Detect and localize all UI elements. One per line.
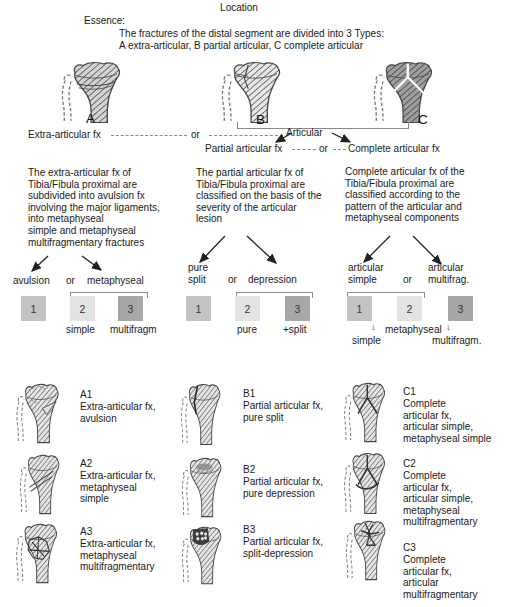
branch-a-right: metaphyseal [87, 275, 144, 287]
column-b-description: The partial articular fx of Tibia/Fibula… [196, 167, 356, 225]
essence-text: The fractures of the distal segment are … [119, 28, 439, 51]
fracture-classification-diagram: Location Essence: The fractures of the d… [0, 0, 506, 607]
type-c1: C1 Complete articular fx, articular simp… [403, 386, 491, 444]
sub-a-right: multifragm [110, 324, 157, 336]
type-a2: A2 Extra-articular fx, metaphyseal simpl… [80, 458, 156, 505]
column-a-arrows [24, 254, 109, 276]
bone-diagram-a3 [8, 521, 68, 585]
bone-letter-c: C [418, 112, 428, 127]
square-c3: 3 [448, 296, 473, 321]
sub-a-left: simple [66, 324, 95, 336]
branch-c-or: or [403, 274, 412, 286]
or-label-mid: or [319, 143, 328, 155]
type-code: B3 [243, 524, 323, 536]
square-a1: 1 [21, 296, 46, 321]
type-label: Extra-articular fx, metaphyseal multifra… [80, 538, 156, 573]
bone-diagram-c1 [336, 380, 396, 444]
type-label: Complete articular fx, articular multifr… [403, 554, 477, 600]
sub-c-mid: metaphyseal [385, 324, 442, 336]
bone-diagram-b1 [173, 381, 231, 447]
type-code: B2 [243, 464, 323, 476]
column-a-description: The extra-articular fx of Tibia/Fibula p… [28, 167, 194, 248]
type-label: Extra-articular fx, avulsion [80, 401, 156, 424]
square-b3: 3 [285, 296, 310, 321]
type-code: A2 [80, 458, 156, 470]
complete-articular-label: Complete articular fx [348, 143, 440, 155]
type-code: C1 [403, 386, 491, 398]
type-code: B1 [243, 388, 323, 400]
bone-diagram-c [362, 59, 448, 125]
type-label: Complete articular fx, articular simple,… [403, 470, 477, 528]
branch-a-or: or [66, 275, 75, 287]
bone-diagram-a1 [8, 381, 70, 445]
dashed-connector [111, 135, 187, 136]
branch-c-right: articular multifrag. [428, 262, 469, 285]
branch-b-left: pure split [188, 262, 208, 285]
branch-a-left: avulsion [13, 275, 50, 287]
type-c3: C3 Complete articular fx, articular mult… [403, 542, 477, 600]
type-b3: B3 Partial articular fx, split-depressio… [243, 524, 323, 559]
square-a3: 3 [118, 296, 143, 321]
sub-c-right: multifragm. [432, 335, 481, 347]
dashed-connector [292, 149, 316, 150]
square-c1: 1 [347, 296, 372, 321]
bone-diagram-a2 [12, 452, 70, 516]
square-c2: 2 [397, 296, 422, 321]
down-arrow-icon: ↓ [446, 322, 451, 332]
bone-letter-a: A [86, 111, 95, 126]
branch-b-right: depression [248, 274, 297, 286]
page-title: Location [0, 2, 478, 13]
sub-c-left: simple [352, 335, 381, 347]
type-label: Partial articular fx, split-depression [243, 536, 323, 559]
branch-c-left: articular simple [348, 262, 384, 285]
column-c-description: Complete articular fx of the Tibia/Fibul… [345, 166, 505, 224]
square-b2: 2 [235, 296, 260, 321]
b-c-bracket [237, 122, 409, 129]
sub-b-left: pure [237, 324, 257, 336]
or-label-top: or [191, 129, 200, 141]
type-b1: B1 Partial articular fx, pure split [243, 388, 323, 423]
type-a3: A3 Extra-articular fx, metaphyseal multi… [80, 526, 156, 573]
type-a1: A1 Extra-articular fx, avulsion [80, 389, 156, 424]
type-label: Extra-articular fx, metaphyseal simple [80, 470, 156, 505]
branch-b-or: or [228, 274, 237, 286]
bone-diagram-c3 [338, 518, 396, 582]
type-code: A3 [80, 526, 156, 538]
square-b1: 1 [186, 296, 211, 321]
type-b2: B2 Partial articular fx, pure depression [243, 464, 323, 499]
bone-diagram-c2 [336, 450, 396, 516]
type-code: C2 [403, 458, 477, 470]
bone-diagram-b3 [174, 524, 232, 586]
extra-articular-label: Extra-articular fx [28, 129, 101, 141]
sub-b-right: +split [283, 324, 307, 336]
partial-articular-label: Partial articular fx [205, 143, 282, 155]
bone-diagram-b [210, 59, 296, 125]
type-label: Partial articular fx, pure split [243, 400, 323, 423]
essence-label: Essence: [84, 15, 125, 26]
type-code: A1 [80, 389, 156, 401]
type-label: Complete articular fx, articular simple,… [403, 398, 491, 444]
dashed-connector [333, 149, 346, 150]
type-c2: C2 Complete articular fx, articular simp… [403, 458, 477, 528]
type-code: C3 [403, 542, 477, 554]
square-a2: 2 [70, 296, 95, 321]
type-label: Partial articular fx, pure depression [243, 476, 323, 499]
down-arrow-icon: ↓ [371, 322, 376, 332]
bone-diagram-b2 [174, 455, 232, 519]
